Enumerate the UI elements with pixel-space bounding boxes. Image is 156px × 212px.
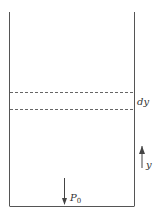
pressure-label: P0 — [69, 192, 81, 205]
fluid-column-diagram: dy y P0 — [0, 0, 156, 212]
pressure-arrowhead-icon — [62, 198, 67, 205]
pressure-subscript: 0 — [77, 197, 81, 205]
dy-label: dy — [137, 96, 149, 107]
y-axis-label: y — [145, 159, 152, 170]
